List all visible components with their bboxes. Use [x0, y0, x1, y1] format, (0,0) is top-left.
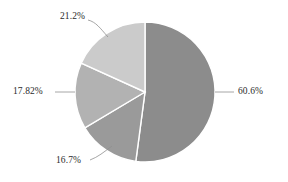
pie-slice-label-21-2: 21.2% — [60, 12, 85, 22]
pie-slice-label-17-82: 17.82% — [13, 87, 43, 97]
pie-slice-label-16-7: 16.7% — [56, 156, 81, 166]
pie-slices-group — [75, 22, 215, 162]
pie-chart-figure: 60.6% 16.7% 17.82% 21.2% — [0, 0, 288, 182]
pie-slice-60-6- — [136, 22, 215, 162]
pie-slice-label-60-6: 60.6% — [238, 87, 263, 97]
leader-line-bottom — [90, 146, 112, 160]
